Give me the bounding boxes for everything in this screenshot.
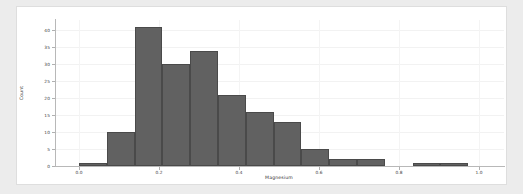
plot-card: 0510152025303540 0.00.20.40.60.81.0 Magn… <box>17 7 506 184</box>
y-tick-label: 35 <box>17 45 50 50</box>
histogram-bar <box>107 132 135 166</box>
histogram-bar <box>135 27 163 166</box>
histogram-bar <box>246 112 274 166</box>
y-tick-label: 10 <box>17 130 50 135</box>
figure-canvas: 0510152025303540 0.00.20.40.60.81.0 Magn… <box>0 0 523 194</box>
y-tick-label: 0 <box>17 164 50 169</box>
histogram-bar <box>357 159 385 166</box>
y-tick-mark <box>52 166 55 167</box>
y-axis-label: Count <box>19 86 24 100</box>
histogram-bar <box>218 95 246 166</box>
histogram-bar <box>301 149 329 166</box>
histogram-bar <box>440 163 468 166</box>
y-tick-label: 40 <box>17 28 50 33</box>
histogram-bar <box>329 159 357 166</box>
histogram-bars <box>55 20 503 166</box>
x-axis-spine <box>55 166 505 167</box>
histogram-bar <box>190 51 218 166</box>
histogram-bar <box>274 122 302 166</box>
histogram-bar <box>413 163 441 166</box>
histogram-bar <box>79 163 107 166</box>
x-axis-label: Magnesium <box>55 175 503 180</box>
y-tick-label: 30 <box>17 62 50 67</box>
y-tick-label: 15 <box>17 113 50 118</box>
y-tick-label: 25 <box>17 79 50 84</box>
histogram-bar <box>162 64 190 166</box>
y-tick-label: 5 <box>17 147 50 152</box>
